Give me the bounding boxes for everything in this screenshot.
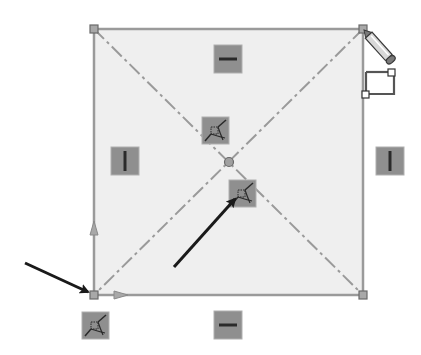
- sketch-canvas[interactable]: [0, 0, 421, 355]
- annotation-arrow-origin: [25, 263, 88, 292]
- vertical-relation-icon[interactable]: [111, 147, 139, 175]
- midpoint-relation-icon[interactable]: [82, 312, 109, 339]
- vertex-bottom-right[interactable]: [359, 291, 367, 299]
- center-point[interactable]: [225, 158, 234, 167]
- horizontal-relation-icon[interactable]: [214, 311, 242, 339]
- vertex-bottom-left[interactable]: [90, 291, 98, 299]
- midpoint-relation-icon[interactable]: [202, 117, 229, 144]
- vertical-relation-icon[interactable]: [376, 147, 404, 175]
- pencil-cursor-icon: [360, 27, 396, 98]
- horizontal-relation-icon[interactable]: [214, 45, 242, 73]
- vertex-top-left[interactable]: [90, 25, 98, 33]
